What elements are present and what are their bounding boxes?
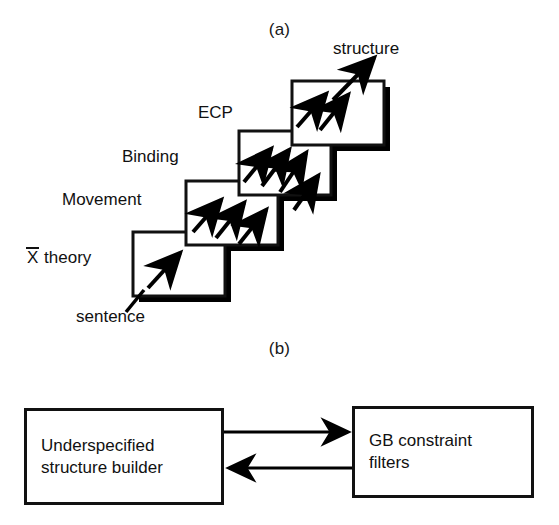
block-right-line2: filters: [369, 452, 472, 474]
xbar-overbar-glyph: X: [26, 249, 39, 266]
block-diagram: Underspecified structure builder GB cons…: [0, 340, 559, 525]
block-right-text: GB constraint filters: [355, 430, 472, 474]
output-label-structure: structure: [333, 40, 399, 57]
cascade-diagram: X theory Movement Binding ECP sentence s…: [0, 0, 559, 340]
stage-label-ecp: ECP: [198, 104, 233, 121]
block-left-text: Underspecified structure builder: [27, 435, 163, 479]
stage-label-binding: Binding: [122, 148, 179, 165]
block-left-line1: Underspecified: [41, 435, 163, 457]
cascade-svg: [0, 0, 559, 340]
stage-label-movement: Movement: [62, 191, 141, 208]
xbar-theory-suffix: theory: [39, 248, 91, 267]
block-right-line1: GB constraint: [369, 430, 472, 452]
figure-root: (a): [0, 0, 559, 525]
block-left-line2: structure builder: [41, 457, 163, 479]
input-label-sentence: sentence: [76, 308, 145, 325]
stage-label-xbar-theory: X theory: [26, 249, 91, 266]
block-underspecified-structure-builder[interactable]: Underspecified structure builder: [24, 408, 224, 505]
stage-box-ecp[interactable]: [292, 81, 384, 145]
block-gb-constraint-filters[interactable]: GB constraint filters: [352, 406, 534, 498]
